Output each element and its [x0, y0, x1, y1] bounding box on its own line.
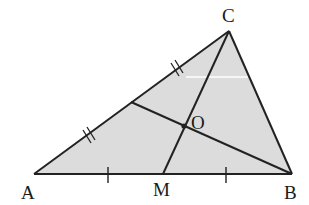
- label-a: A: [21, 182, 35, 203]
- centroid-point-o: [181, 123, 186, 128]
- label-o: O: [191, 112, 205, 133]
- label-c: C: [222, 5, 235, 26]
- triangle-abc-fill: [34, 31, 292, 174]
- label-m: M: [153, 179, 170, 200]
- label-b: B: [284, 182, 297, 203]
- triangle-diagram: A M B C O: [0, 0, 309, 205]
